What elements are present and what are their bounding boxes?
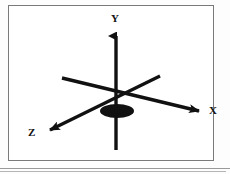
y-axis-label: Y [111,13,119,24]
axis-lines [50,36,199,150]
z-axis-line [50,76,160,130]
z-axis-label: Z [28,127,35,138]
bottom-divider-upper [0,168,230,169]
axes-diagram [0,0,230,174]
bottom-divider-lower [0,171,226,172]
figure-page: Y X Z [0,0,230,174]
x-axis-line [62,78,199,111]
x-axis-label: X [209,105,217,116]
